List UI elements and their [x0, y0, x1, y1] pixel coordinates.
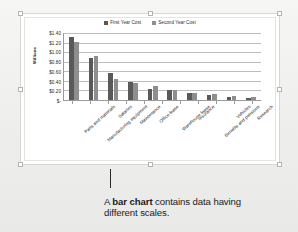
legend-label-series-1: First Year Cost: [110, 20, 141, 25]
x-axis-category-labels: Parts and materialsManufacturing equipme…: [63, 104, 261, 162]
selection-handle-top-right[interactable]: [277, 11, 282, 16]
bar-group: [103, 33, 123, 100]
slide-background: First Year Cost Second Year Cost Million…: [0, 0, 298, 232]
selection-handle-bottom-left[interactable]: [18, 162, 23, 167]
bar-series-2[interactable]: [192, 93, 197, 100]
bar-series-1[interactable]: [108, 73, 113, 100]
bar-series-2[interactable]: [114, 79, 119, 100]
bar-series-2[interactable]: [232, 96, 237, 100]
legend-swatch-icon-series-2: [152, 21, 156, 25]
selection-handle-bottom-center[interactable]: [148, 162, 153, 167]
chart-plot-wrapper: Millions $1.40$1.20$1.00$0.80$0.60$0.40$…: [21, 14, 279, 164]
legend-label-series-2: Second Year Cost: [158, 20, 196, 25]
bar-series-2[interactable]: [94, 56, 99, 101]
bar-group: [123, 33, 143, 100]
bar-group: [64, 33, 84, 100]
y-axis-tick-label: $1.00: [49, 50, 61, 55]
bar-series-1[interactable]: [167, 90, 172, 100]
bar-series-2[interactable]: [74, 42, 79, 100]
legend-entry-series-2[interactable]: Second Year Cost: [152, 20, 196, 25]
y-axis-tick-label: $0.60: [49, 69, 61, 74]
bar-series-1[interactable]: [246, 98, 251, 100]
selection-handle-bottom-right[interactable]: [277, 162, 282, 167]
legend-entry-series-1[interactable]: First Year Cost: [104, 20, 141, 25]
legend-swatch-icon-series-1: [104, 21, 108, 25]
y-axis-tick-label: $0.80: [49, 60, 61, 65]
y-axis-tick-labels: $1.40$1.20$1.00$0.80$0.60$0.40$0.20$-: [37, 33, 61, 101]
y-axis-tick-label: $1.20: [49, 40, 61, 45]
bar-series-1[interactable]: [89, 58, 94, 100]
caption-emphasis: bar chart: [112, 196, 152, 207]
y-axis-tick-label: $-: [57, 99, 61, 104]
bar-group: [182, 33, 202, 100]
y-axis-tick-label: $0.40: [49, 79, 61, 84]
chart-legend[interactable]: First Year Cost Second Year Cost: [21, 20, 279, 25]
bar-series-1[interactable]: [187, 93, 192, 100]
bar-series-2[interactable]: [173, 90, 178, 100]
bar-series-1[interactable]: [128, 82, 133, 100]
caption-text: A bar chart contains data having differe…: [104, 196, 274, 219]
bar-series-2[interactable]: [133, 83, 138, 100]
selection-handle-top-center[interactable]: [148, 11, 153, 16]
bar-group: [241, 33, 261, 100]
bar-series-1[interactable]: [148, 89, 153, 100]
bar-series-1[interactable]: [207, 95, 212, 100]
plot-area: [63, 33, 261, 101]
caption-leader-line: [110, 169, 111, 188]
bar-series-2[interactable]: [212, 94, 217, 100]
bar-series-2[interactable]: [251, 97, 256, 100]
selection-handle-middle-right[interactable]: [277, 87, 282, 92]
bar-series-2[interactable]: [153, 86, 158, 100]
bar-group: [143, 33, 163, 100]
bar-group: [222, 33, 242, 100]
bar-series-1[interactable]: [227, 97, 232, 100]
y-axis-tick-label: $1.40: [49, 31, 61, 36]
bar-group: [84, 33, 104, 100]
bar-series-container: [64, 33, 261, 100]
bar-group: [202, 33, 222, 100]
bar-series-1[interactable]: [69, 37, 74, 100]
x-axis-category-label: Parts and materials: [83, 104, 116, 134]
embedded-chart-object[interactable]: First Year Cost Second Year Cost Million…: [20, 13, 280, 165]
bar-group: [163, 33, 183, 100]
y-axis-tick-label: $0.20: [49, 89, 61, 94]
selection-handle-middle-left[interactable]: [18, 87, 23, 92]
selection-handle-top-left[interactable]: [18, 11, 23, 16]
